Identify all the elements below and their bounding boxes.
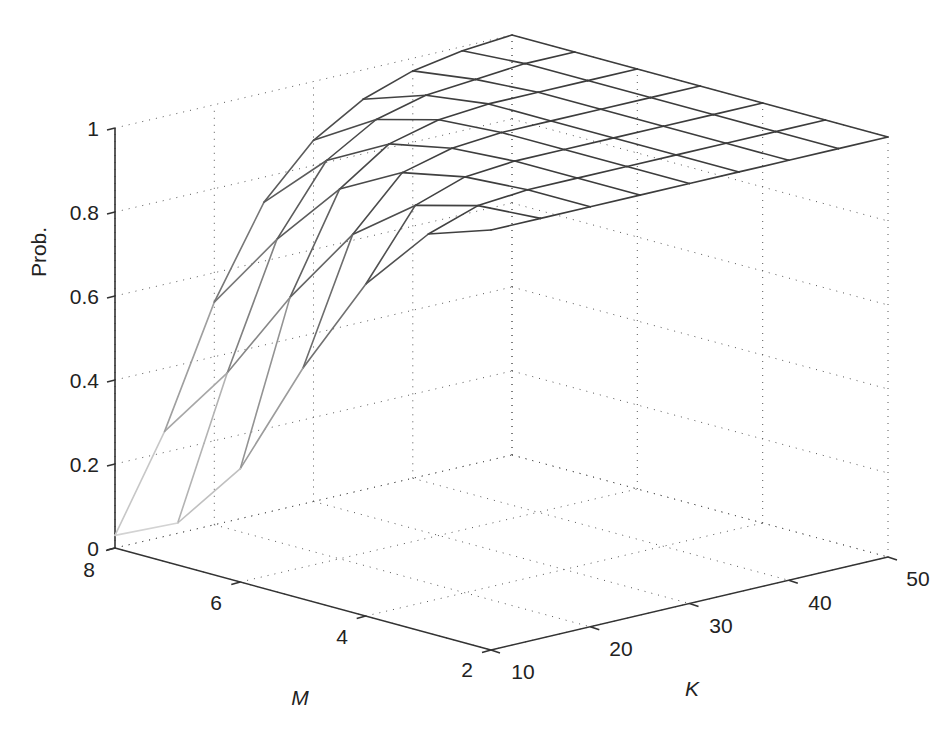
k-tick-label: 40 (808, 591, 831, 614)
k-tick (690, 604, 699, 607)
mesh-edge (465, 177, 528, 190)
z-tick-label: 0.6 (70, 285, 99, 308)
grid-line-z (512, 455, 888, 557)
mesh-edge (577, 178, 640, 195)
z-tick (107, 380, 115, 382)
mesh-edge (277, 161, 327, 240)
mesh-edge (601, 109, 664, 126)
z-tick-labels: 0 0.2 0.4 0.6 0.8 1 (70, 117, 100, 560)
z-tick (107, 296, 115, 298)
mesh-edge (290, 235, 353, 298)
m-tick-label: 2 (461, 658, 473, 681)
grid-line-k (512, 455, 888, 557)
k-tick-label: 10 (511, 660, 534, 683)
mesh-edge (564, 138, 614, 150)
mesh-edge (726, 143, 789, 160)
mesh-edge (165, 302, 215, 431)
m-tick-label: 6 (210, 591, 222, 614)
grid-line-z (115, 35, 512, 128)
mesh-edge (489, 92, 539, 104)
mesh-edge (475, 79, 538, 92)
mesh-edge (650, 86, 700, 98)
axes (106, 128, 897, 653)
k-axis-label: K (685, 677, 700, 700)
mesh-edge (475, 64, 525, 80)
mesh-edge (528, 190, 591, 207)
k-tick-label: 50 (906, 567, 929, 590)
mesh-edge (663, 115, 713, 127)
mesh-edge (402, 148, 452, 172)
mesh-edge (690, 172, 740, 184)
mesh-edge (515, 150, 565, 162)
mesh-edge (838, 137, 888, 149)
k-tick (888, 557, 897, 560)
mesh-edge (515, 161, 578, 178)
surface-plot: 0 0.2 0.4 0.6 0.8 1 8 6 4 2 10 20 30 40 … (0, 0, 952, 737)
m-tick-label: 8 (83, 558, 95, 581)
mesh-edge (115, 523, 178, 535)
z-tick-label: 0 (87, 537, 99, 560)
mesh-edge (538, 81, 588, 93)
mesh-edge (637, 69, 700, 86)
mesh-edge (478, 206, 541, 219)
mesh-edge (551, 109, 601, 121)
mesh-edge (389, 144, 452, 148)
grid-line-m (240, 489, 637, 582)
m-tick-labels: 8 6 4 2 (83, 558, 473, 681)
mesh-edge (439, 120, 502, 133)
mesh-edge (366, 234, 429, 284)
grid-line-z (512, 287, 888, 389)
grid-lines (115, 35, 888, 650)
grid-line-k (314, 502, 690, 604)
z-tick (107, 464, 115, 466)
mesh-edge (439, 104, 489, 120)
mesh-edge (314, 99, 364, 140)
mesh-surface (115, 35, 888, 535)
mesh-edge (227, 297, 290, 372)
mesh-edge (413, 51, 463, 71)
z-tick (107, 128, 115, 130)
mesh-edge (465, 161, 515, 177)
k-tick-labels: 10 20 30 40 50 (511, 567, 929, 683)
mesh-edge (264, 161, 327, 203)
z-tick-label: 1 (87, 117, 99, 140)
mesh-edge (415, 177, 465, 206)
mesh-edge (590, 195, 640, 207)
mesh-edge (353, 173, 403, 235)
mesh-edge (663, 126, 726, 143)
mesh-edge (627, 155, 677, 167)
mesh-edge (825, 120, 888, 137)
mesh-edge (614, 138, 677, 155)
mesh-edge (428, 206, 478, 234)
mesh-edge (564, 150, 627, 167)
mesh-edge (478, 190, 528, 206)
mesh-edge (551, 121, 614, 138)
mesh-edge (677, 143, 727, 155)
mesh-edge (240, 297, 290, 468)
mesh-edge (491, 218, 541, 230)
mesh-edge (502, 133, 565, 150)
mesh-edge (677, 155, 740, 172)
mesh-edge (538, 92, 601, 109)
mesh-edge (489, 104, 552, 121)
mesh-edge (214, 239, 277, 302)
mesh-edge (303, 284, 366, 368)
k-tick (789, 580, 798, 583)
mesh-edge (525, 52, 575, 64)
z-tick-label: 0.8 (70, 201, 99, 224)
mesh-edge (726, 132, 776, 144)
mesh-edge (525, 64, 588, 81)
k-tick (491, 650, 500, 653)
mesh-edge (739, 160, 789, 172)
mesh-edge (428, 230, 491, 234)
m-axis (115, 548, 491, 650)
grid-line-m (366, 523, 763, 616)
m-tick-label: 4 (336, 625, 348, 648)
grid-line-z (512, 371, 888, 473)
k-tick-label: 30 (709, 614, 732, 637)
mesh-edge (650, 98, 713, 115)
mesh-edge (541, 207, 591, 219)
m-tick (482, 650, 491, 653)
mesh-edge (776, 120, 826, 132)
mesh-edge (713, 103, 763, 115)
